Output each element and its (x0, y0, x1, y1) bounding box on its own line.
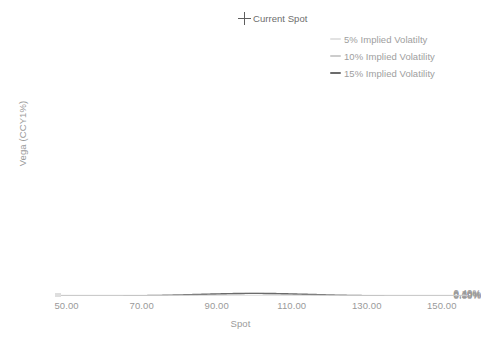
legend-item[interactable]: 15% Implied Volatility (330, 65, 478, 81)
x-tick-label: 90.00 (187, 300, 247, 311)
legend-swatch-icon (330, 55, 341, 56)
chart-legend: 5% Implied Volatilty10% Implied Volatili… (330, 31, 478, 82)
x-tick-label: 130.00 (337, 300, 397, 311)
legend-swatch-icon (330, 38, 341, 39)
legend-label: 10% Implied Volatility (344, 51, 435, 62)
legend-item[interactable]: 10% Implied Volatility (330, 48, 478, 64)
legend-label: 15% Implied Volatility (344, 68, 435, 79)
x-axis-title: Spot (0, 318, 481, 329)
legend-item[interactable]: 5% Implied Volatilty (330, 31, 478, 47)
y-tick-mark (55, 296, 61, 297)
legend-swatch-icon (330, 72, 341, 73)
x-tick-label: 70.00 (112, 300, 172, 311)
x-tick-label: 150.00 (412, 300, 472, 311)
vega-vs-spot-chart: Vega (CCY1%) 0.00%0.10%0.20%0.30%0.40% 5… (0, 0, 481, 342)
x-tick-label: 110.00 (262, 300, 322, 311)
legend-label: 5% Implied Volatilty (344, 34, 427, 45)
y-axis-title: Vega (CCY1%) (17, 88, 28, 180)
x-tick-label: 50.00 (37, 300, 97, 311)
